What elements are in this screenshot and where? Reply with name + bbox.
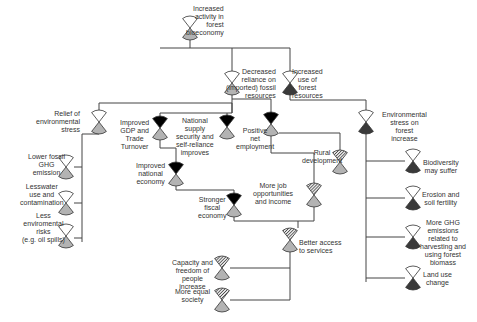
label-rural-development: Rural development <box>302 149 342 165</box>
label-capacity-freedom: Capacity and freedom of people increase <box>172 259 213 291</box>
bottom-wedge-grey <box>92 122 107 134</box>
bottom-wedge-grey <box>215 300 230 312</box>
top-wedge-empty <box>359 110 374 122</box>
connector-line <box>176 186 234 193</box>
label-less-environmental-risks: Less enviromental risks (e.g. oil spills… <box>22 212 65 244</box>
bottom-wedge-grey <box>169 174 184 186</box>
connector-line <box>160 140 176 162</box>
label-more-equal-society: More equal society <box>175 288 210 304</box>
top-wedge-hatch <box>307 183 322 195</box>
label-more-job-opportunities: More job opportunities and income <box>253 182 293 206</box>
label-environmental-stress-increase: Environmental stress on forest increase <box>382 111 427 143</box>
bottom-wedge-grey <box>307 195 322 207</box>
hourglass-biodiversity-may-suffer <box>406 149 421 173</box>
hourglass-improved-national-economy <box>169 162 184 186</box>
top-wedge-empty <box>406 149 421 161</box>
hourglass-environmental-stress-increase <box>359 110 374 134</box>
hourglass-land-use-change <box>406 266 421 290</box>
top-wedge-empty <box>406 225 421 237</box>
label-lesswater-use: Lesswater use and contamination <box>20 183 64 207</box>
bottom-wedge-dark <box>359 122 374 134</box>
bottom-wedge-dark <box>406 237 421 249</box>
connector-line <box>234 217 298 228</box>
bottom-wedge-grey <box>220 127 235 139</box>
connector-line <box>232 99 271 113</box>
hourglass-more-job-opportunities <box>307 183 322 207</box>
label-land-use-change: Land use change <box>423 271 452 287</box>
label-relief-environmental-stress: Relief of environmental stress <box>36 110 80 134</box>
diagram-canvas <box>0 0 477 322</box>
label-positive-net-employment: Positive net employment <box>236 127 274 151</box>
top-wedge-hatch <box>215 288 230 300</box>
label-better-access-services: Better access to services <box>299 239 341 255</box>
hourglass-better-access-services <box>283 228 298 252</box>
hourglass-erosion-soil-fertility <box>406 186 421 210</box>
bottom-wedge-grey <box>215 268 230 280</box>
connector-line <box>290 100 366 111</box>
label-erosion-soil-fertility: Erosion and soil fertility <box>422 191 459 207</box>
hourglass-stronger-fiscal-economy <box>227 193 242 217</box>
label-increased-activity: Increased activity in forest bioeconomy <box>186 5 224 37</box>
top-wedge-hatch <box>283 228 298 240</box>
label-decreased-reliance: Decreased reliance on (imported) fossil … <box>226 68 276 100</box>
hourglass-improved-gdp <box>153 116 168 140</box>
label-improved-national-economy: Improved national economy <box>136 162 165 186</box>
top-wedge-black <box>153 116 168 128</box>
hourglass-relief-environmental-stress <box>92 110 107 134</box>
label-improved-gdp: Improved GDP and Trade Turnover <box>120 119 149 151</box>
connector-line <box>298 207 314 221</box>
bottom-wedge-grey <box>283 240 298 252</box>
top-wedge-empty <box>92 110 107 122</box>
label-increased-forest-use: Increased use of forest resources <box>292 68 323 100</box>
label-stronger-fiscal-economy: Stronger fiscal economy <box>198 196 226 220</box>
bottom-wedge-dark <box>406 198 421 210</box>
label-biodiversity-may-suffer: Biodiversity may suffer <box>423 159 459 175</box>
label-more-ghg-emissions: More GHG emissions related to harvesting… <box>420 219 466 267</box>
top-wedge-empty <box>406 266 421 278</box>
hourglass-capacity-freedom <box>215 256 230 280</box>
label-lower-fossil-ghg: Lower fossil GHG emission <box>28 153 65 177</box>
top-wedge-black <box>264 112 279 124</box>
hourglass-more-equal-society <box>215 288 230 312</box>
hourglass-more-ghg-emissions <box>406 225 421 249</box>
bottom-wedge-dark <box>406 278 421 290</box>
label-national-supply-security: National supply security and self-relian… <box>176 117 214 157</box>
bottom-wedge-dark <box>406 161 421 173</box>
top-wedge-hatch <box>215 256 230 268</box>
top-wedge-black <box>169 162 184 174</box>
top-wedge-black <box>220 115 235 127</box>
bottom-wedge-grey <box>227 205 242 217</box>
bottom-wedge-grey <box>153 128 168 140</box>
hourglass-national-supply-security <box>220 115 235 139</box>
top-wedge-black <box>227 193 242 205</box>
connector-line <box>279 133 340 150</box>
top-wedge-empty <box>406 186 421 198</box>
